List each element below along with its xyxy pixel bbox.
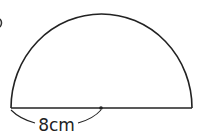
semicircle-arc <box>11 14 192 108</box>
radius-label: 8cm <box>38 115 75 135</box>
radius-brace-left <box>11 110 35 123</box>
cut-off-marker <box>0 19 2 27</box>
center-point <box>99 106 103 110</box>
semicircle-diagram: 8cm <box>0 0 202 138</box>
radius-brace-right <box>78 110 101 123</box>
